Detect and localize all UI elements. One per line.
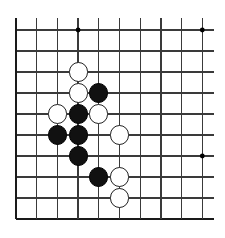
star-point: [200, 28, 205, 33]
stone-black[interactable]: [69, 125, 88, 144]
stone-black[interactable]: [89, 83, 108, 102]
stone-white[interactable]: [110, 188, 129, 207]
stone-white[interactable]: [110, 167, 129, 186]
go-diagram: [0, 0, 225, 238]
stone-white[interactable]: [69, 83, 88, 102]
star-point: [76, 28, 81, 33]
stone-black[interactable]: [69, 146, 88, 165]
stone-black[interactable]: [69, 104, 88, 123]
stone-white[interactable]: [69, 62, 88, 81]
stone-black[interactable]: [89, 167, 108, 186]
stone-white[interactable]: [110, 125, 129, 144]
stone-white[interactable]: [48, 104, 67, 123]
stone-white[interactable]: [89, 104, 108, 123]
star-point: [200, 154, 205, 159]
stone-black[interactable]: [48, 125, 67, 144]
